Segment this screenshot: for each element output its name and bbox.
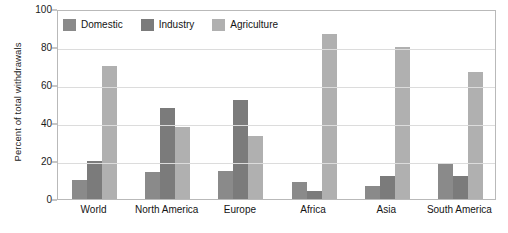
bar [365,186,380,199]
bar [438,163,453,199]
bar-group [424,11,497,199]
bars-layer [58,11,495,199]
y-axis-tick-label: 80 [20,43,52,53]
legend-entry: Industry [141,19,195,31]
y-axis-tick-mark [52,162,57,163]
x-axis-tick-labels: WorldNorth AmericaEuropeAfricaAsiaSouth … [57,203,496,219]
chart-legend: DomesticIndustryAgriculture [63,19,278,31]
x-axis-tick-label: South America [427,203,492,217]
legend-label: Agriculture [230,19,278,31]
y-axis-tick-mark [52,48,57,49]
gridline [58,125,495,126]
bar [233,100,248,199]
y-axis-tick-mark [52,10,57,11]
bar-group [131,11,204,199]
y-axis-tick-label: 60 [20,81,52,91]
legend-swatch-icon [212,19,225,31]
legend-swatch-icon [141,19,154,31]
bar-group [204,11,277,199]
x-axis-tick-label: Africa [300,203,326,217]
plot-area: DomesticIndustryAgriculture [57,10,496,200]
x-axis-tick-label: Asia [377,203,396,217]
legend-label: Domestic [81,19,123,31]
y-axis-tick-mark [52,124,57,125]
x-axis-tick-label: World [81,203,107,217]
legend-label: Industry [159,19,195,31]
legend-entry: Domestic [63,19,123,31]
bar-chart: Percent of total withdrawals 02040608010… [0,0,508,233]
bar [468,72,483,199]
gridline [58,87,495,88]
legend-entry: Agriculture [212,19,278,31]
bar-group [278,11,351,199]
x-axis-tick-label: North America [135,203,198,217]
bar [453,176,468,199]
bar [322,34,337,199]
bar [380,176,395,199]
bar-group [58,11,131,199]
y-axis-tick-labels: 020406080100 [20,10,52,200]
y-axis-tick-label: 100 [20,5,52,15]
bar [248,136,263,199]
gridline [58,163,495,164]
bar [160,108,175,199]
y-axis-tick-label: 40 [20,119,52,129]
bar [292,182,307,199]
y-axis-tick-label: 0 [20,195,52,205]
bar [395,47,410,199]
bar [218,171,233,200]
y-axis-tick-mark [52,200,57,201]
gridline [58,49,495,50]
bar-group [351,11,424,199]
x-axis-tick-label: Europe [224,203,256,217]
bar [72,180,87,199]
bar [102,66,117,199]
legend-swatch-icon [63,19,76,31]
bar [87,161,102,199]
y-axis-tick-mark [52,86,57,87]
bar [145,172,160,199]
y-axis-tick-label: 20 [20,157,52,167]
bar [307,191,322,199]
